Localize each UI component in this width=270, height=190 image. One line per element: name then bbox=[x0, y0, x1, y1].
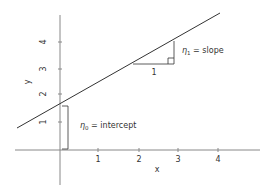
y-tick-label-1: 1 bbox=[39, 119, 48, 124]
right-angle-marker bbox=[168, 58, 174, 64]
slope-label: η1 = slope bbox=[182, 46, 224, 56]
slope-text: = slope bbox=[191, 46, 224, 55]
intercept-label: η0 = intercept bbox=[80, 121, 136, 131]
y-tick-label-4: 4 bbox=[39, 39, 48, 44]
x-tick-label-3: 3 bbox=[175, 155, 180, 164]
y-axis-label: y bbox=[23, 79, 32, 84]
linear-model-diagram: 1 2 3 4 1 2 3 4 x y η0 = intercept 1 η1 … bbox=[0, 0, 270, 190]
slope-triangle bbox=[133, 41, 174, 64]
intercept-bracket bbox=[62, 106, 68, 149]
y-tick-label-3: 3 bbox=[39, 66, 48, 71]
x-axis-label: x bbox=[155, 165, 160, 174]
x-tick-label-2: 2 bbox=[136, 155, 141, 164]
x-tick-label-1: 1 bbox=[95, 155, 100, 164]
x-tick-label-4: 4 bbox=[215, 155, 220, 164]
run-label: 1 bbox=[151, 68, 156, 77]
intercept-text: = intercept bbox=[89, 121, 137, 130]
y-ticks: 1 2 3 4 bbox=[39, 39, 62, 124]
y-tick-label-2: 2 bbox=[39, 91, 48, 96]
